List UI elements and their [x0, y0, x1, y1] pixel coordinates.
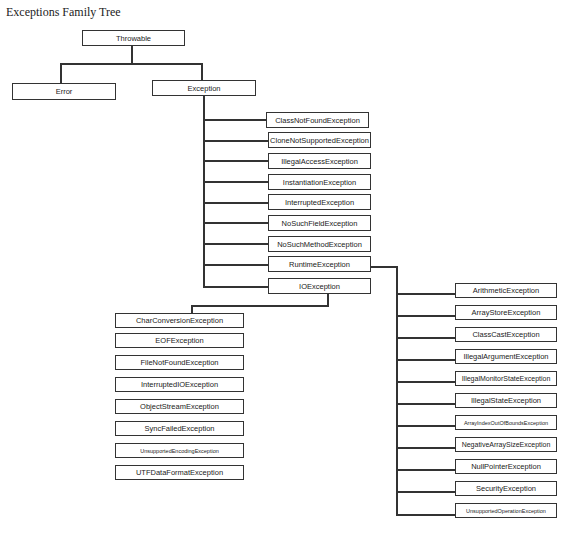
- node-nosuchfieldexception: NoSuchFieldException: [268, 215, 371, 231]
- connector: [396, 337, 455, 339]
- connector: [396, 315, 455, 317]
- node-unsupportedencodingexception: UnsupportedEncodingException: [115, 443, 244, 458]
- connector: [203, 286, 268, 288]
- connector: [203, 222, 268, 224]
- connector: [396, 447, 455, 449]
- node-negativearraysizeexception: NegativeArraySizeException: [455, 437, 557, 452]
- node-interruptedexception: InterruptedException: [268, 194, 371, 210]
- node-illegalmonitorstateexception: IllegalMonitorStateException: [455, 371, 557, 386]
- connector: [131, 46, 133, 64]
- node-interruptedioexception: InterruptedIOException: [115, 377, 244, 392]
- node-illegalstateexception: IllegalStateException: [455, 393, 557, 408]
- node-nullpointerexception: NullPointerException: [455, 459, 557, 474]
- node-illegalargumentexception: IllegalArgumentException: [455, 349, 557, 364]
- connector: [191, 305, 329, 307]
- connector: [203, 119, 268, 121]
- node-error: Error: [12, 83, 116, 100]
- connector: [203, 243, 268, 245]
- connector: [203, 181, 268, 183]
- connector: [191, 305, 193, 313]
- connector: [396, 266, 398, 516]
- connector: [396, 514, 455, 516]
- node-syncfailedexception: SyncFailedException: [115, 421, 244, 436]
- connector: [396, 359, 455, 361]
- connector: [203, 140, 268, 142]
- node-utfdataformatexception: UTFDataFormatException: [115, 465, 244, 480]
- node-securityexception: SecurityException: [455, 481, 557, 496]
- node-clonenotsupportedexception: CloneNotSupportedException: [268, 132, 371, 148]
- node-instantiationexception: InstantiationException: [268, 174, 371, 190]
- node-arrayindexoutofboundsexception: ArrayIndexOutOfBoundsException: [455, 415, 557, 430]
- connector: [396, 425, 455, 427]
- connector: [396, 293, 455, 295]
- node-unsupportedoperationexception: UnsupportedOperationException: [455, 503, 557, 518]
- connector: [60, 63, 202, 65]
- node-arithmeticexception: ArithmeticException: [455, 283, 557, 298]
- connector: [203, 264, 268, 266]
- connector: [371, 266, 397, 268]
- connector: [203, 96, 205, 287]
- connector: [203, 202, 268, 204]
- node-classcastexception: ClassCastException: [455, 327, 557, 342]
- node-arraystoreexception: ArrayStoreException: [455, 305, 557, 320]
- node-charconversionexception: CharConversionException: [115, 313, 244, 328]
- connector: [60, 63, 62, 83]
- node-nosuchmethodexception: NoSuchMethodException: [268, 236, 371, 252]
- connector: [396, 381, 455, 383]
- connector: [396, 469, 455, 471]
- connector: [203, 160, 268, 162]
- node-runtimeexception: RuntimeException: [268, 256, 371, 272]
- node-eofexception: EOFException: [115, 333, 244, 348]
- connector: [396, 491, 455, 493]
- node-ioexception: IOException: [268, 278, 371, 294]
- connector: [396, 403, 455, 405]
- node-objectstreamexception: ObjectStreamException: [115, 399, 244, 414]
- node-classnotfoundexception: ClassNotFoundException: [266, 112, 369, 128]
- diagram-title: Exceptions Family Tree: [6, 5, 121, 20]
- node-filenotfoundexception: FileNotFoundException: [115, 355, 244, 370]
- connector: [201, 63, 203, 81]
- node-exception: Exception: [152, 80, 256, 96]
- node-throwable: Throwable: [82, 30, 185, 46]
- node-illegalaccessexception: IllegalAccessException: [268, 153, 371, 169]
